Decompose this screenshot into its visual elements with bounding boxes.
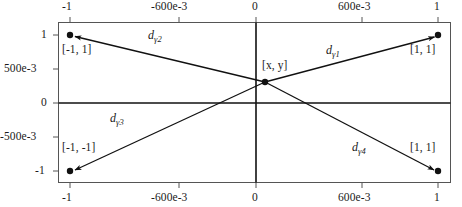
y-axis-tick-label-1: 500e-3 — [4, 63, 37, 75]
plot-canvas — [0, 0, 462, 207]
left-axis-ticks — [53, 35, 59, 171]
distance-label-d-gamma-2: dγ2 — [148, 29, 162, 44]
x-axis-bottom-tick-label-4: 1 — [434, 192, 440, 204]
x-axis-top-tick-label-2: 0 — [252, 1, 258, 13]
distance-line-d-gamma-3 — [75, 82, 265, 170]
point-label-top-right: [1, 1] — [410, 44, 436, 56]
y-axis-tick-label-4: -1 — [35, 165, 45, 177]
data-point-bottom-right — [435, 168, 441, 174]
point-label-bottom-right: [1, 1] — [410, 142, 436, 154]
distance-label-d-gamma-1-sub: γ1 — [332, 49, 340, 59]
distance-label-d-gamma-4-sub: γ4 — [358, 146, 366, 156]
x-axis-bottom-tick-label-3: 600e-3 — [338, 192, 371, 204]
data-point-bottom-left — [67, 168, 73, 174]
x-axis-bottom-tick-label-2: 0 — [252, 192, 258, 204]
distance-line-d-gamma-2 — [75, 37, 265, 83]
vector-distance-diagram: -1 -600e-3 0 600e-3 1 -1 -600e-3 0 600e-… — [0, 0, 462, 207]
x-axis-top-tick-label-1: -600e-3 — [151, 1, 187, 13]
distance-line-d-gamma-4 — [265, 82, 434, 170]
distance-label-d-gamma-3-sub: γ3 — [116, 117, 124, 127]
x-axis-bottom-tick-label-1: -600e-3 — [151, 192, 187, 204]
distance-label-d-gamma-2-sub: γ2 — [154, 34, 162, 44]
point-label-top-left: [-1, 1] — [62, 44, 91, 56]
data-point-top-left — [67, 32, 73, 38]
y-axis-tick-label-3: -500e-3 — [0, 131, 36, 143]
y-axis-tick-label-0: 1 — [41, 29, 47, 41]
distance-label-d-gamma-3: dγ3 — [110, 112, 124, 127]
x-axis-top-tick-label-4: 1 — [434, 1, 440, 13]
x-axis-bottom-tick-label-0: -1 — [62, 192, 72, 204]
bottom-axis-ticks — [70, 183, 438, 189]
x-axis-top-tick-label-0: -1 — [62, 1, 72, 13]
point-label-center: [x, y] — [262, 60, 288, 72]
data-point-center — [262, 79, 268, 85]
top-axis-ticks — [70, 17, 438, 23]
data-point-top-right — [435, 32, 441, 38]
point-label-bottom-left: [-1, -1] — [62, 142, 95, 154]
distance-label-d-gamma-4: dγ4 — [352, 141, 366, 156]
distance-label-d-gamma-1: dγ1 — [326, 44, 340, 59]
x-axis-top-tick-label-3: 600e-3 — [338, 1, 371, 13]
y-axis-tick-label-2: 0 — [41, 97, 47, 109]
